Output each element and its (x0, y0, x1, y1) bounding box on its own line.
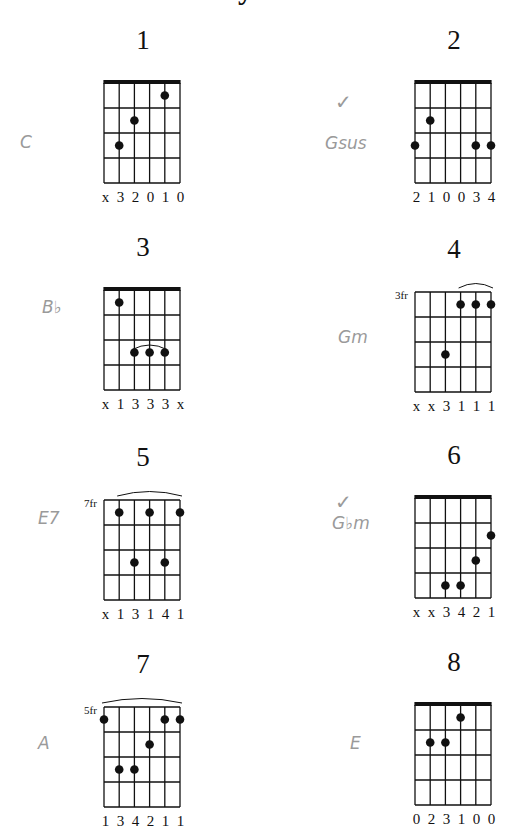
chord-number: 6 (415, 442, 493, 469)
fingering-value: 2 (143, 813, 158, 829)
finger-dot (145, 740, 154, 749)
finger-dot (161, 91, 170, 100)
finger-dot (176, 715, 185, 724)
fingering-value: 4 (128, 813, 143, 829)
fretboard-grid (408, 478, 498, 608)
finger-dot (441, 738, 450, 747)
nut (103, 80, 180, 84)
fingering-value: 0 (439, 189, 454, 206)
fingering-value: 1 (173, 606, 188, 623)
fingering-value: 1 (454, 398, 469, 415)
fret-position-label: 7fr (84, 497, 97, 509)
fingering-value: 3 (113, 189, 128, 206)
fingering-value: x (409, 398, 424, 415)
fingering-value: x (98, 606, 113, 623)
handwritten-chord-name: C (20, 132, 32, 152)
fingering-value: 4 (158, 606, 173, 623)
fretboard-grid (97, 63, 187, 193)
nut (103, 287, 180, 291)
finger-dot (456, 300, 465, 309)
fret-position-label: 3fr (395, 289, 408, 301)
finger-dot (100, 715, 109, 724)
chord-number: 3 (104, 234, 182, 261)
fingering-row: x1333x (98, 396, 188, 413)
handwritten-chord-name: E (350, 733, 361, 753)
fingering-value: 1 (158, 189, 173, 206)
fretboard-grid (408, 63, 498, 193)
fingering-value: 1 (454, 811, 469, 828)
handwritten-chord-name: G♭m (332, 513, 370, 533)
finger-dot (130, 558, 139, 567)
finger-dot (115, 508, 124, 517)
fingering-value: 0 (469, 811, 484, 828)
finger-dot (145, 348, 154, 357)
fingering-value: 1 (173, 813, 188, 829)
fretboard-grid (408, 685, 498, 815)
fingering-value: x (173, 396, 188, 413)
handwritten-chord-name: A (38, 733, 50, 753)
nut (414, 495, 491, 499)
page-title-fragment: y (238, 0, 253, 4)
fingering-value: 0 (454, 189, 469, 206)
finger-dot (426, 738, 435, 747)
fingering-value: 4 (484, 189, 499, 206)
finger-dot (115, 765, 124, 774)
fretboard-grid (97, 270, 187, 400)
finger-dot (130, 765, 139, 774)
finger-dot (472, 300, 481, 309)
finger-dot (456, 713, 465, 722)
chord-number: 5 (104, 444, 182, 471)
finger-dot (426, 116, 435, 125)
fingering-value: 1 (113, 396, 128, 413)
fret-position-label: 5fr (84, 704, 97, 716)
finger-dot (441, 350, 450, 359)
fingering-value: 1 (143, 606, 158, 623)
fingering-value: 1 (484, 604, 499, 621)
fingering-value: 4 (454, 604, 469, 621)
fingering-row: x13141 (98, 606, 188, 623)
fingering-row: x32010 (98, 189, 188, 206)
fingering-value: x (424, 398, 439, 415)
finger-dot (456, 581, 465, 590)
fingering-value: 1 (98, 813, 113, 829)
fingering-row: 134211 (98, 813, 188, 829)
finger-dot (487, 531, 496, 540)
finger-dot (487, 300, 496, 309)
fingering-value: 0 (143, 189, 158, 206)
handwritten-check-icon: ✓ (335, 90, 352, 114)
fingering-value: 3 (439, 398, 454, 415)
fingering-row: 210034 (409, 189, 499, 206)
fingering-value: 3 (158, 396, 173, 413)
fingering-value: 2 (128, 189, 143, 206)
handwritten-check-icon: ✓ (335, 490, 352, 514)
fingering-value: 3 (128, 396, 143, 413)
chord-number: 1 (104, 27, 182, 54)
chord-number: 2 (415, 27, 493, 54)
fingering-value: 3 (113, 813, 128, 829)
fingering-value: 1 (158, 813, 173, 829)
fingering-value: 3 (439, 811, 454, 828)
barre-arc (117, 492, 182, 497)
finger-dot (161, 715, 170, 724)
fingering-value: 1 (469, 398, 484, 415)
handwritten-chord-name: Gm (338, 327, 368, 347)
handwritten-chord-name: Gsus (325, 133, 367, 153)
finger-dot (115, 141, 124, 150)
fingering-row: xx3421 (409, 604, 499, 621)
fretboard-grid (97, 687, 187, 817)
barre-arc (102, 699, 182, 704)
fingering-value: 1 (113, 606, 128, 623)
fingering-value: x (98, 396, 113, 413)
fingering-row: 023100 (409, 811, 499, 828)
finger-dot (487, 141, 496, 150)
fingering-value: 0 (409, 811, 424, 828)
fingering-value: 1 (484, 398, 499, 415)
finger-dot (130, 116, 139, 125)
finger-dot (472, 556, 481, 565)
finger-dot (145, 508, 154, 517)
finger-dot (176, 508, 185, 517)
fingering-value: 3 (143, 396, 158, 413)
barre-arc (459, 284, 493, 289)
handwritten-chord-name: E7 (38, 508, 60, 528)
finger-dot (441, 581, 450, 590)
